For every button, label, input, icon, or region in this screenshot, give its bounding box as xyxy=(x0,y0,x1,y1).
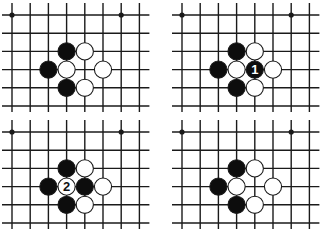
star-point xyxy=(179,12,184,17)
white-stone xyxy=(94,61,111,78)
black-stone xyxy=(228,43,245,60)
black-stone xyxy=(228,160,245,177)
star-point xyxy=(119,12,124,17)
white-stone xyxy=(246,79,263,96)
star-point xyxy=(179,129,184,134)
white-stone xyxy=(228,178,245,195)
star-point xyxy=(289,12,294,17)
star-point xyxy=(289,129,294,134)
black-stone xyxy=(58,196,75,213)
move-number-label: 1 xyxy=(251,62,258,77)
star-point xyxy=(9,12,14,17)
panel-2: 1 xyxy=(172,3,319,112)
white-stone xyxy=(94,178,111,195)
move-number-label: 2 xyxy=(63,179,70,194)
black-stone xyxy=(228,79,245,96)
black-stone xyxy=(58,43,75,60)
star-point xyxy=(9,129,14,134)
black-stone xyxy=(210,61,227,78)
black-stone xyxy=(40,178,57,195)
white-stone xyxy=(76,79,93,96)
white-stone xyxy=(264,178,281,195)
white-stone xyxy=(76,160,93,177)
black-stone xyxy=(58,79,75,96)
panel-3: 2 xyxy=(2,120,149,229)
white-stone xyxy=(76,43,93,60)
panel-4 xyxy=(172,120,319,229)
white-stone xyxy=(76,196,93,213)
white-stone xyxy=(264,61,281,78)
black-stone xyxy=(40,61,57,78)
black-stone xyxy=(210,178,227,195)
star-point xyxy=(119,129,124,134)
black-stone xyxy=(76,178,93,195)
white-stone xyxy=(246,160,263,177)
go-diagram: 12 xyxy=(0,0,324,238)
white-stone xyxy=(246,196,263,213)
black-stone xyxy=(228,196,245,213)
white-stone xyxy=(228,61,245,78)
white-stone xyxy=(58,61,75,78)
black-stone xyxy=(58,160,75,177)
panel-1 xyxy=(2,3,149,112)
white-stone xyxy=(246,43,263,60)
